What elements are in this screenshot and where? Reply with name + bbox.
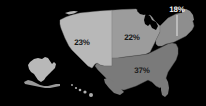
map-inset-hawaii-3	[79, 89, 82, 92]
map-inset-hawaii-5	[89, 93, 93, 97]
region-label-west: 23%	[74, 39, 90, 47]
region-label-south: 37%	[134, 67, 150, 75]
map-inset-hawaii-4	[83, 90, 86, 93]
region-label-midwest: 22%	[124, 34, 140, 42]
map-region-south-florida	[161, 78, 169, 97]
map-inset-hawaii-2	[75, 87, 77, 89]
map-inset-alaska[interactable]	[28, 57, 56, 82]
us-map-svg	[0, 0, 206, 106]
region-label-northeast: 18%	[169, 6, 185, 14]
map-inset-hawaii-1	[71, 84, 73, 86]
northeast-leader-line	[177, 15, 178, 36]
us-regional-map-figure: 23% 22% 37% 18%	[0, 0, 206, 106]
